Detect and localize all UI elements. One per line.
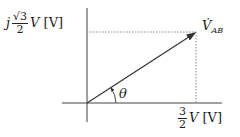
imag-axis-label: j√32V [V] <box>6 11 63 36</box>
angle-arc <box>111 88 116 103</box>
v-dot: V̇ <box>202 18 211 33</box>
phasor-label: V̇AB <box>202 19 223 35</box>
frac-den: 2 <box>17 24 24 36</box>
var-v: V <box>30 15 39 30</box>
phasor-diagram: j√32V [V] V̇AB θ 32V [V] <box>0 0 240 137</box>
angle-label: θ <box>119 87 127 100</box>
unit: [V] <box>203 110 223 125</box>
sqrt3-over-2: √32 <box>12 11 28 36</box>
frac-den: 2 <box>179 119 186 131</box>
j-symbol: j <box>6 15 10 30</box>
phasor-vector <box>87 33 195 103</box>
real-axis-label: 32V [V] <box>176 106 222 131</box>
phasor-subscript: AB <box>211 26 223 35</box>
unit: [V] <box>44 15 64 30</box>
three-over-2: 32 <box>178 106 187 131</box>
var-v: V <box>189 110 198 125</box>
